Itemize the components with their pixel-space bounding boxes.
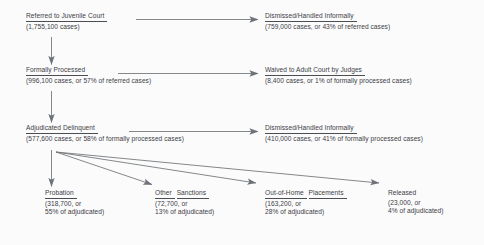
node-heading-second-line: Placements bbox=[309, 189, 347, 199]
node-heading: Dismissed/Handled Informally bbox=[265, 124, 357, 134]
node-other-sanctions: Other Sanctions (72,700, or 13% of adjud… bbox=[155, 189, 214, 217]
node-line: (577,600 cases, or 58% of formally proce… bbox=[26, 135, 184, 144]
node-heading: Released bbox=[388, 189, 416, 198]
node-line: 55% of adjudicated) bbox=[45, 208, 104, 217]
node-heading: Probation bbox=[45, 189, 77, 199]
node-adjudicated-delinquent: Adjudicated Delinquent (577,600 cases, o… bbox=[26, 124, 184, 143]
node-referred-to-juvenile-court: Referred to Juvenile Court (1,755,100 ca… bbox=[26, 12, 107, 31]
node-formally-processed: Formally Processed (996,100 cases, or 57… bbox=[26, 66, 151, 85]
node-released: Released (23,000, or 4% of adjudicated) bbox=[388, 189, 444, 216]
node-waived-to-adult-court: Waived to Adult Court by Judges (8,400 c… bbox=[265, 66, 412, 85]
node-line: (8,400 cases, or 1% of formally processe… bbox=[265, 77, 412, 86]
arrow-adjudicated-to-released bbox=[56, 152, 379, 183]
node-heading: Other bbox=[155, 189, 175, 199]
node-line: 28% of adjudicated) bbox=[265, 208, 347, 217]
node-heading: Formally Processed bbox=[26, 66, 88, 76]
node-heading: Referred to Juvenile Court bbox=[26, 12, 107, 22]
node-line: (23,000, or bbox=[388, 199, 444, 208]
node-line: (72,700, or bbox=[155, 200, 214, 209]
node-dismissed-handled-informally-2: Dismissed/Handled Informally (410,000 ca… bbox=[265, 124, 423, 143]
node-line: (1,755,100 cases) bbox=[26, 23, 107, 32]
flowchart-canvas: Referred to Juvenile Court (1,755,100 ca… bbox=[0, 0, 484, 245]
node-out-of-home-placements: Out-of-Home Placements (163,200, or 28% … bbox=[265, 189, 347, 217]
node-line: 13% of adjudicated) bbox=[155, 208, 214, 217]
node-heading-second-line: Sanctions bbox=[177, 189, 209, 199]
arrow-adjudicated-to-other-sanctions bbox=[56, 152, 152, 185]
node-line: (996,100 cases, or 57% of referred cases… bbox=[26, 77, 151, 86]
node-line: 4% of adjudicated) bbox=[388, 207, 444, 216]
node-dismissed-handled-informally-1: Dismissed/Handled Informally (759,000 ca… bbox=[265, 12, 390, 31]
arrow-adjudicated-to-out-of-home bbox=[56, 152, 256, 183]
node-line: (318,700, or bbox=[45, 200, 104, 209]
node-heading: Waived to Adult Court by Judges bbox=[265, 66, 365, 76]
node-heading: Out-of-Home bbox=[265, 189, 307, 199]
node-heading: Adjudicated Delinquent bbox=[26, 124, 98, 134]
node-line: (163,200, or bbox=[265, 200, 347, 209]
node-heading: Dismissed/Handled Informally bbox=[265, 12, 357, 22]
node-line: (759,000 cases, or 43% of referred cases… bbox=[265, 23, 390, 32]
node-line: (410,000 cases, or 41% of formally proce… bbox=[265, 135, 423, 144]
node-probation: Probation (318,700, or 55% of adjudicate… bbox=[45, 189, 104, 217]
